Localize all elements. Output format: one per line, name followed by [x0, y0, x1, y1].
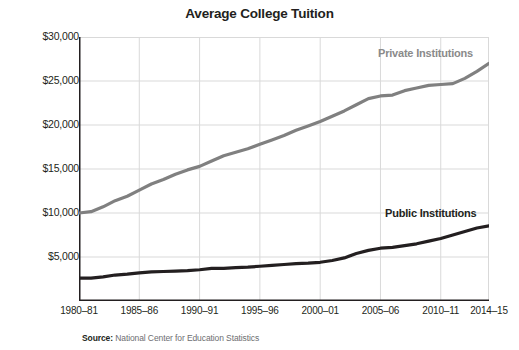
source-label: Source:	[82, 333, 113, 343]
x-axis-tick-label: 2000–01	[301, 305, 339, 316]
x-axis-tick-label: 2010–11	[422, 305, 459, 316]
series-line-private	[79, 63, 489, 213]
x-axis-tick-label: 1980–81	[60, 305, 98, 316]
series-plot	[79, 37, 489, 301]
x-axis-tick-label: 1990–91	[181, 305, 219, 316]
series-line-public	[79, 226, 489, 278]
series-label-private: Private Institutions	[378, 47, 473, 59]
plot-area	[79, 37, 489, 301]
series-label-public: Public Institutions	[385, 207, 477, 219]
x-axis-tick-label: 1995–96	[241, 305, 279, 316]
source-note: Source: National Center for Education St…	[82, 333, 259, 343]
x-axis-tick-label: 2014–15	[470, 305, 508, 316]
x-axis-tick-label: 1985–86	[121, 305, 159, 316]
source-text: National Center for Education Statistics	[115, 333, 259, 343]
x-axis-tick-label: 2005–06	[362, 305, 400, 316]
chart-container: Average College Tuition Constant 2014–15…	[0, 0, 519, 350]
